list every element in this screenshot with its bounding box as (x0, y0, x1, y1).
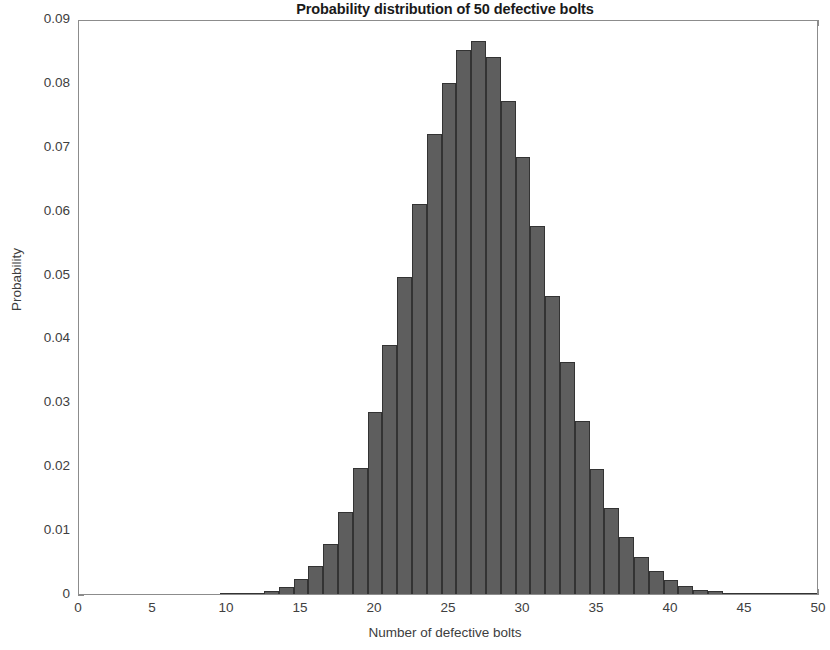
histogram-bar (693, 590, 708, 594)
x-tick-mark (818, 589, 819, 595)
histogram-bar (442, 83, 457, 594)
histogram-bar (308, 566, 323, 594)
histogram-bar (649, 571, 664, 594)
x-tick-label: 15 (270, 600, 330, 615)
y-tick-label: 0.06 (0, 203, 70, 218)
histogram-bar (427, 134, 442, 594)
x-tick-label: 0 (48, 600, 108, 615)
y-tick-label: 0.04 (0, 330, 70, 345)
y-tick-label: 0.01 (0, 522, 70, 537)
histogram-bar (264, 591, 279, 594)
x-tick-label: 5 (122, 600, 182, 615)
histogram-bar (412, 204, 427, 594)
histogram-bar (812, 593, 818, 594)
histogram-bar (486, 57, 501, 594)
histogram-bar (767, 593, 782, 594)
x-tick-label: 30 (492, 600, 552, 615)
x-tick-label: 35 (566, 600, 626, 615)
histogram-bar (516, 157, 531, 594)
x-tick-label: 20 (344, 600, 404, 615)
histogram-bar (456, 50, 471, 594)
y-tick-label: 0.09 (0, 11, 70, 26)
histogram-bar (604, 508, 619, 594)
x-tick-label: 50 (788, 600, 830, 615)
histogram-bar (323, 544, 338, 594)
histogram-bar (382, 345, 397, 594)
x-axis-label: Number of defective bolts (78, 625, 812, 640)
y-tick-label: 0.07 (0, 139, 70, 154)
histogram-bar (708, 591, 723, 594)
plot-area (78, 20, 818, 595)
x-tick-label: 40 (640, 600, 700, 615)
histogram-bar (752, 593, 767, 594)
histogram-bar (234, 593, 249, 594)
histogram-bar (220, 593, 235, 594)
histogram-bar (575, 421, 590, 594)
x-tick-mark-top (818, 20, 819, 26)
histogram-bar (634, 557, 649, 594)
x-tick-label: 45 (714, 600, 774, 615)
histogram-bar (664, 580, 679, 594)
histogram-bar (249, 593, 264, 594)
y-tick-label: 0.08 (0, 75, 70, 90)
histogram-bar (590, 469, 605, 594)
histogram-bar (560, 362, 575, 594)
histogram-bars (79, 21, 817, 594)
histogram-bar (279, 587, 294, 594)
histogram-bar (368, 412, 383, 594)
histogram-bar (797, 593, 812, 594)
histogram-bar (353, 468, 368, 594)
histogram-bar (397, 277, 412, 594)
chart-title: Probability distribution of 50 defective… (78, 1, 812, 17)
y-tick-label: 0.03 (0, 394, 70, 409)
histogram-bar (738, 593, 753, 594)
y-tick-mark (78, 595, 84, 596)
histogram-bar (338, 512, 353, 594)
histogram-bar (619, 537, 634, 595)
histogram-bar (294, 579, 309, 594)
histogram-bar (471, 41, 486, 594)
y-tick-label: 0.05 (0, 267, 70, 282)
histogram-bar (782, 593, 797, 594)
histogram-bar (545, 296, 560, 594)
y-tick-label: 0 (0, 586, 70, 601)
x-tick-label: 10 (196, 600, 256, 615)
histogram-bar (678, 586, 693, 594)
x-tick-label: 25 (418, 600, 478, 615)
histogram-bar (501, 101, 516, 594)
y-tick-label: 0.02 (0, 458, 70, 473)
histogram-bar (530, 226, 545, 594)
histogram-bar (723, 593, 738, 594)
